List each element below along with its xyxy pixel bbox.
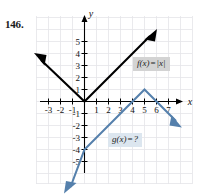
x-tick-label: 1 [94, 105, 99, 115]
y-tick-label: 3 [76, 61, 81, 71]
function-g-equals: = [127, 134, 134, 144]
curve-f-arrowhead-left [34, 53, 47, 66]
grid-lines [36, 16, 193, 184]
y-tick-label: -1 [73, 109, 81, 119]
curve-g-arrowhead-left [64, 181, 77, 194]
y-tick-label: 2 [76, 73, 81, 83]
curve-f-arrowhead-right [145, 29, 158, 42]
function-g-name: g(x) [112, 134, 127, 144]
coordinate-graph: -3 -2 -1 1 2 3 4 5 6 7 5 4 3 2 1 -1 -2 -… [0, 0, 206, 195]
x-axis-label: x [187, 96, 193, 107]
function-f-value: |x| [157, 58, 166, 68]
y-tick-label: -4 [73, 145, 81, 155]
x-tick-label: 4 [130, 105, 135, 115]
y-tick-label: 5 [76, 37, 81, 47]
y-tick-label: -3 [73, 133, 81, 143]
figure-container: 146. [0, 0, 206, 195]
x-tick-label: 5 [142, 105, 147, 115]
y-axis-arrowhead [82, 15, 88, 22]
function-g-annotation: g(x)=? [108, 133, 142, 147]
y-tick-label: -2 [73, 121, 81, 131]
function-f-name: f(x) [137, 58, 150, 68]
x-tick-label: -2 [57, 105, 65, 115]
x-tick-label: 6 [154, 105, 159, 115]
y-tick-label: 4 [76, 49, 81, 59]
x-axis-arrowhead [176, 99, 183, 105]
y-axis-label: y [88, 8, 94, 19]
function-g-value: ? [134, 134, 139, 144]
function-f-equals: = [150, 58, 157, 68]
function-f-annotation: f(x)=|x| [133, 57, 170, 71]
x-tick-label: 2 [106, 105, 111, 115]
x-tick-label: -3 [45, 105, 53, 115]
